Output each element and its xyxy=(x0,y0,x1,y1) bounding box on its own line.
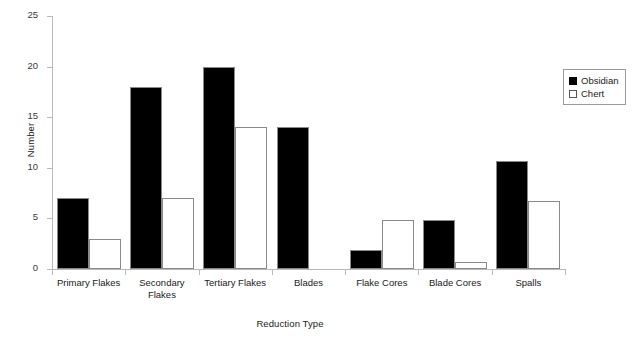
bar-obsidian-2 xyxy=(203,67,235,269)
legend-item-label: Obsidian xyxy=(581,75,619,86)
category-label: Spalls xyxy=(486,277,571,289)
bar-chert-0 xyxy=(89,239,121,269)
x-axis-title: Reduction Type xyxy=(0,318,580,329)
y-tick-label: 10 xyxy=(27,161,38,172)
black-square-icon xyxy=(569,77,577,85)
bar-chart: Number 0510152025 Primary FlakesSecondar… xyxy=(0,0,639,343)
y-tick-label: 20 xyxy=(27,60,38,71)
bar-chert-6 xyxy=(528,201,560,269)
x-tick xyxy=(199,269,200,275)
plot-area: 0510152025 xyxy=(52,17,565,270)
bar-obsidian-5 xyxy=(423,220,455,269)
y-tick: 15 xyxy=(47,117,53,118)
bar-obsidian-0 xyxy=(57,198,89,269)
y-tick: 10 xyxy=(47,168,53,169)
x-tick xyxy=(492,269,493,275)
x-tick xyxy=(345,269,346,275)
x-tick xyxy=(272,269,273,275)
x-tick xyxy=(565,269,566,275)
x-tick xyxy=(125,269,126,275)
legend-item-chert[interactable]: Chert xyxy=(569,87,619,100)
x-tick xyxy=(52,269,53,275)
y-tick-label: 25 xyxy=(27,9,38,20)
y-tick-label: 15 xyxy=(27,110,38,121)
y-tick: 25 xyxy=(47,16,53,17)
y-tick-label: 5 xyxy=(33,211,38,222)
bar-obsidian-3 xyxy=(277,127,309,269)
y-tick: 20 xyxy=(47,67,53,68)
legend: ObsidianChert xyxy=(563,69,626,105)
x-tick xyxy=(418,269,419,275)
x-axis-line xyxy=(52,269,565,270)
bar-chert-4 xyxy=(382,220,414,269)
legend-item-label: Chert xyxy=(581,88,604,99)
bar-obsidian-1 xyxy=(130,87,162,269)
bar-obsidian-4 xyxy=(350,250,382,269)
y-axis-line xyxy=(52,17,53,270)
bar-chert-1 xyxy=(162,198,194,269)
white-square-icon xyxy=(569,90,577,98)
legend-item-obsidian[interactable]: Obsidian xyxy=(569,74,619,87)
bar-chert-2 xyxy=(235,127,267,269)
y-tick-label: 0 xyxy=(33,262,38,273)
bar-obsidian-6 xyxy=(496,161,528,269)
y-tick: 5 xyxy=(47,218,53,219)
bar-chert-5 xyxy=(455,262,487,269)
